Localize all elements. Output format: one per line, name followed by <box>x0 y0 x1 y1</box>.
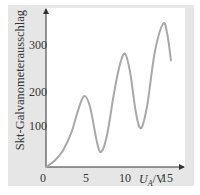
data-curve <box>46 23 171 167</box>
y-tick-200: 200 <box>29 86 47 98</box>
x-tick-10: 10 <box>119 172 131 184</box>
x-axis-label: UA/V <box>139 172 165 188</box>
y-tick-100: 100 <box>29 120 47 132</box>
x-tick-5: 5 <box>83 172 89 184</box>
y-axis-label: Skt-Galvanometerausschlag <box>13 0 28 160</box>
y-tick-300: 300 <box>29 39 47 51</box>
x-tick-0: 0 <box>40 172 46 184</box>
